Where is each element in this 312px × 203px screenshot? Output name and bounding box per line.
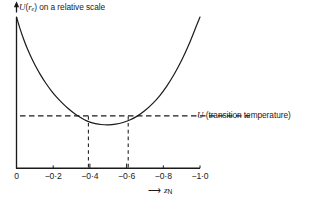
x-tick-label: −0·8: [143, 172, 183, 181]
x-tick-label: −0·4: [70, 172, 110, 181]
x-tick-label: −0·6: [107, 172, 147, 181]
x-tick-label: −0·2: [33, 172, 73, 181]
x-axis-ticks: [17, 164, 201, 169]
x-axis-label-subscript: N: [168, 188, 173, 195]
x-tick-label: −1·0: [180, 172, 220, 181]
figure-root: U(re) on a relative scale 0 −0·2 −0·4 −0…: [0, 0, 312, 203]
y-axis-label-rest: on a relative scale: [37, 2, 105, 12]
x-tick-label: 0: [0, 172, 37, 181]
x-axis-label: ⟶zN: [148, 186, 172, 196]
transition-label-text: (transition temperature): [203, 110, 290, 120]
transition-temperature-label: U (transition temperature): [197, 111, 291, 120]
potential-energy-curve: [17, 17, 201, 125]
right-arrow-icon: ⟶: [148, 185, 160, 195]
y-axis-label: U(re) on a relative scale: [19, 3, 105, 13]
